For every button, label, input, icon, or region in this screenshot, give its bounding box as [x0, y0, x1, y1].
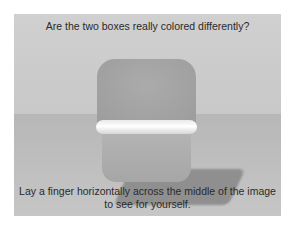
- lower-box: [102, 132, 191, 182]
- illusion-image: Are the two boxes really colored differe…: [14, 14, 281, 216]
- question-text: Are the two boxes really colored differe…: [14, 20, 281, 33]
- instruction-text: Lay a finger horizontally across the mid…: [14, 185, 281, 210]
- white-ledge: [96, 120, 197, 134]
- upper-box: [97, 59, 196, 125]
